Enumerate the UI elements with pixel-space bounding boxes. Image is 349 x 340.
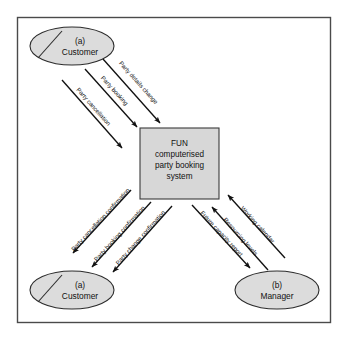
data-flow-diagram: (a) Customer FUN computerised party book… <box>0 0 349 340</box>
entity-ellipse <box>30 27 114 65</box>
entity-label: Customer <box>62 291 99 301</box>
entity-manager: (b) Manager <box>235 271 319 309</box>
entity-customer-top: (a) Customer <box>30 27 114 65</box>
entity-ellipse <box>235 271 319 309</box>
process-fun-system: FUN computerised party booking system <box>140 128 219 199</box>
process-line-2: computerised <box>155 150 205 159</box>
entity-tag: (a) <box>75 280 85 290</box>
process-line-4: system <box>167 172 193 181</box>
process-line-1: FUN <box>171 139 188 148</box>
process-line-3: party booking <box>155 161 205 170</box>
entity-label: Customer <box>62 47 99 57</box>
entity-customer-bottom: (a) Customer <box>30 271 114 309</box>
entity-tag: (b) <box>272 280 282 290</box>
entity-tag: (a) <box>75 36 85 46</box>
entity-label: Manager <box>260 291 293 301</box>
entity-ellipse <box>30 271 114 309</box>
diagram-canvas: (a) Customer FUN computerised party book… <box>0 0 349 340</box>
